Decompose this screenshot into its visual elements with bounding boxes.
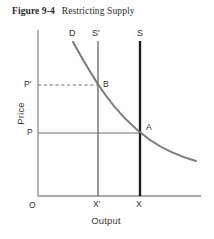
point-b-label: B xyxy=(103,79,109,89)
figure-container: Figure 9-4Restricting Supply Price Outpu… xyxy=(0,0,214,239)
supply-restricted-label: S' xyxy=(92,28,100,38)
x-axis-title: Output xyxy=(70,215,142,226)
supply-label: S xyxy=(137,28,143,38)
x-tick-qty-restricted: X' xyxy=(93,199,100,209)
demand-curve-label: D xyxy=(69,28,76,38)
origin-label: O xyxy=(29,200,36,210)
demand-curve xyxy=(73,42,196,161)
y-axis-title: Price xyxy=(15,86,26,142)
y-tick-price-high: P' xyxy=(24,79,31,89)
y-tick-price-low: P xyxy=(27,127,33,137)
x-tick-qty-free: X xyxy=(136,199,142,209)
point-a-label: A xyxy=(146,122,152,132)
